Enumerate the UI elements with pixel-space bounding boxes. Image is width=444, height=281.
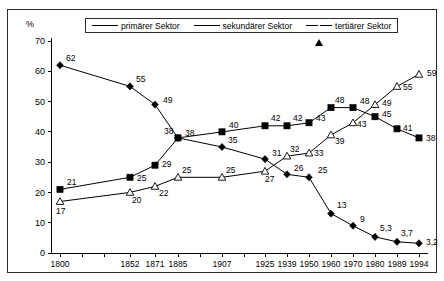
y-axis-unit-label: % xyxy=(26,19,34,29)
triangle-marker-icon xyxy=(315,22,322,29)
legend-line-primaer xyxy=(92,21,118,30)
legend-line-sekundaer xyxy=(194,21,220,30)
legend-item-tertiaer[interactable]: tertiärer Sektor xyxy=(306,21,391,31)
chart-screenshot: % primärer Sektor sekundärer Sektor xyxy=(0,0,444,281)
chart-outer-frame xyxy=(7,9,437,273)
legend-label-primaer: primärer Sektor xyxy=(121,21,180,31)
diamond-marker-icon xyxy=(101,22,108,29)
legend-item-sekundaer[interactable]: sekundärer Sektor xyxy=(194,21,292,31)
legend-label-sekundaer: sekundärer Sektor xyxy=(223,21,292,31)
legend-label-tertiaer: tertiärer Sektor xyxy=(335,21,391,31)
legend-line-tertiaer xyxy=(306,21,332,30)
chart-legend: primärer Sektor sekundärer Sektor tertiä… xyxy=(85,18,398,33)
legend-item-primaer[interactable]: primärer Sektor xyxy=(92,21,180,31)
square-marker-icon xyxy=(203,22,210,29)
